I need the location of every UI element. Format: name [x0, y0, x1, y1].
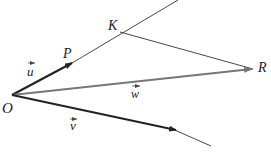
- vector-v-arrow: [12, 95, 176, 130]
- point-r-label: R: [257, 60, 267, 75]
- vector-u-label-group: u: [27, 63, 35, 79]
- point-p-label: P: [62, 46, 72, 61]
- vector-u-label: u: [27, 64, 34, 79]
- vector-v-label-group: v: [70, 118, 77, 133]
- ray-op-line: [72, 0, 178, 63]
- vector-w-label-group: w: [131, 86, 140, 101]
- segment-kr-line: [120, 32, 253, 69]
- diagram-svg: O P K R u w v: [0, 0, 271, 154]
- vector-v-label: v: [70, 118, 76, 133]
- vector-w-label: w: [131, 87, 139, 101]
- ray-ov-line: [170, 128, 211, 146]
- point-o-label: O: [2, 100, 13, 116]
- vector-diagram: O P K R u w v: [0, 0, 271, 154]
- point-k-label: K: [107, 18, 118, 33]
